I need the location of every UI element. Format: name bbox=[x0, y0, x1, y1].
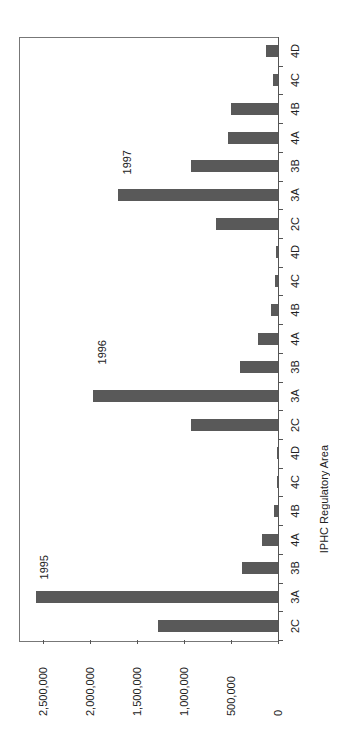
bar-1997-2C bbox=[216, 218, 279, 230]
bar-1997-4B bbox=[231, 103, 279, 115]
bar-1995-3A bbox=[36, 591, 279, 603]
category-label: 4B bbox=[289, 496, 301, 526]
category-tick bbox=[279, 181, 283, 182]
category-tick bbox=[279, 66, 283, 67]
category-label: 3B bbox=[289, 553, 301, 583]
bar-1997-3B bbox=[191, 160, 279, 172]
category-tick bbox=[279, 525, 283, 526]
bar-1995-4A bbox=[262, 534, 279, 546]
bar-1996-3A bbox=[93, 390, 279, 402]
category-tick bbox=[279, 152, 283, 153]
plot-area bbox=[19, 37, 279, 642]
bar-1995-2C bbox=[158, 620, 279, 632]
value-tick-label: 500,000 bbox=[225, 646, 237, 716]
category-label: 4D bbox=[289, 438, 301, 468]
value-tick bbox=[43, 640, 44, 644]
category-tick bbox=[279, 295, 283, 296]
category-label: 4C bbox=[289, 266, 301, 296]
category-label: 4C bbox=[289, 467, 301, 497]
x-axis-title: IPHC Regulatory Area bbox=[318, 445, 330, 553]
bar-1996-3B bbox=[240, 361, 279, 373]
category-tick bbox=[279, 238, 283, 239]
category-tick bbox=[279, 209, 283, 210]
category-tick bbox=[279, 267, 283, 268]
category-label: 2C bbox=[289, 611, 301, 641]
value-tick bbox=[137, 640, 138, 644]
zero-baseline bbox=[278, 37, 279, 640]
category-label: 4B bbox=[289, 295, 301, 325]
category-tick bbox=[279, 640, 283, 641]
value-tick bbox=[278, 640, 279, 644]
category-label: 4B bbox=[289, 94, 301, 124]
category-label: 3A bbox=[289, 180, 301, 210]
category-tick bbox=[279, 496, 283, 497]
value-tick-label: 1,000,000 bbox=[178, 646, 190, 716]
bar-1996-2C bbox=[191, 419, 279, 431]
category-tick bbox=[279, 439, 283, 440]
category-tick bbox=[279, 382, 283, 383]
category-tick bbox=[279, 94, 283, 95]
category-label: 3B bbox=[289, 151, 301, 181]
year-label-1995: 1995 bbox=[38, 555, 50, 579]
category-tick bbox=[279, 353, 283, 354]
category-label: 2C bbox=[289, 209, 301, 239]
year-label-1997: 1997 bbox=[121, 150, 133, 174]
value-tick bbox=[184, 640, 185, 644]
bar-1997-3A bbox=[118, 189, 279, 201]
category-tick bbox=[279, 410, 283, 411]
category-label: 4A bbox=[289, 525, 301, 555]
category-label: 4A bbox=[289, 324, 301, 354]
chart-canvas: 2C3A3B4A4B4C4D2C3A3B4A4B4C4D2C3A3B4A4B4C… bbox=[0, 0, 337, 745]
category-label: 2C bbox=[289, 410, 301, 440]
category-tick bbox=[279, 324, 283, 325]
value-tick bbox=[90, 640, 91, 644]
bar-1995-3B bbox=[242, 562, 279, 574]
bar-1997-4A bbox=[228, 132, 279, 144]
category-tick bbox=[279, 583, 283, 584]
category-label: 3A bbox=[289, 381, 301, 411]
category-tick bbox=[279, 123, 283, 124]
value-tick-label: 2,500,000 bbox=[37, 646, 49, 716]
category-label: 4C bbox=[289, 65, 301, 95]
category-tick bbox=[279, 611, 283, 612]
value-tick-label: 1,500,000 bbox=[131, 646, 143, 716]
category-label: 4A bbox=[289, 123, 301, 153]
value-tick-label: 0 bbox=[272, 646, 284, 716]
category-tick bbox=[279, 554, 283, 555]
bar-1996-4A bbox=[258, 333, 279, 345]
category-label: 3A bbox=[289, 582, 301, 612]
category-tick bbox=[279, 468, 283, 469]
value-tick-label: 2,000,000 bbox=[84, 646, 96, 716]
value-tick bbox=[231, 640, 232, 644]
year-label-1996: 1996 bbox=[96, 340, 108, 364]
category-label: 3B bbox=[289, 352, 301, 382]
category-label: 4D bbox=[289, 36, 301, 66]
category-label: 4D bbox=[289, 237, 301, 267]
